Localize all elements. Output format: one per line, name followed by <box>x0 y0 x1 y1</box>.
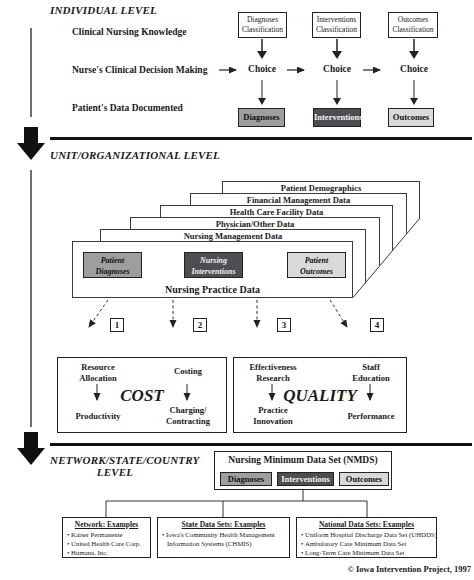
row-label-decision-making: Nurse's Clinical Decision Making <box>72 65 207 75</box>
classification-arrows <box>262 39 414 51</box>
list-item: United Health Care Corp. <box>64 539 149 548</box>
cost-title: COST <box>58 386 226 406</box>
cost-panel: Resource Allocation Costing COST Product… <box>57 357 227 433</box>
dashed-branch-arrows <box>89 300 347 327</box>
quality-performance: Performance <box>336 411 406 422</box>
stack-card-label: Physician/Other Data <box>131 218 379 229</box>
stack-card-label: Patient Demographics <box>223 182 419 193</box>
network-examples-box: Network: Examples Kaiser Permanente Unit… <box>62 517 151 558</box>
stack-card-label: Health Care Facility Data <box>161 206 392 217</box>
state-data-sets-title: State Data Sets: Examples <box>159 520 288 529</box>
list-item: Humana, Inc. <box>64 548 149 557</box>
down-arrowhead-icon <box>333 98 341 105</box>
interventions-data-box: Interventions <box>313 108 361 127</box>
nursing-practice-data-title: Nursing Practice Data <box>73 284 352 295</box>
branch-number-4: 4 <box>370 318 384 332</box>
patient-diagnoses-box: Patient Diagnoses <box>83 252 142 278</box>
branch-number-2: 2 <box>193 318 207 332</box>
stack-card-label: Nursing Management Data <box>101 230 365 241</box>
figure-canvas: INDIVIDUAL LEVEL Clinical Nursing Knowle… <box>0 0 474 580</box>
patient-outcomes-box: Patient Outcomes <box>287 252 346 278</box>
national-data-sets-title: National Data Sets: Examples <box>298 520 435 529</box>
national-data-sets-box: National Data Sets: Examples Uniform Hos… <box>296 517 437 558</box>
cost-productivity: Productivity <box>66 411 130 422</box>
interventions-classification-box: Interventions Classification <box>312 12 361 38</box>
level-down-arrow-1-icon <box>17 127 45 160</box>
row-label-data-documented: Patient's Data Documented <box>72 103 183 113</box>
down-arrowhead-icon <box>409 51 419 59</box>
level-down-arrow-2-icon <box>17 432 45 465</box>
stack-card-label: Financial Management Data <box>191 194 406 205</box>
nmds-tree-connectors <box>106 490 367 517</box>
network-level-heading: NETWORK/STATE/COUNTRY LEVEL <box>50 454 180 478</box>
choice-to-data-arrows <box>262 80 414 98</box>
nursing-interventions-box: Nursing Interventions <box>184 252 243 278</box>
cost-charging-contracting: Charging/ Contracting <box>156 405 220 426</box>
cost-costing: Costing <box>156 366 220 377</box>
quality-practice-innovation: Practice Innovation <box>238 405 308 426</box>
down-arrowhead-icon <box>257 51 267 59</box>
outcomes-classification-box: Outcomes Classification <box>388 12 438 38</box>
state-data-sets-box: State Data Sets: Examples Iowa's Communi… <box>157 517 290 558</box>
diagnoses-classification-box: Diagnoses Classification <box>238 12 287 38</box>
unit-level-heading: UNIT/ORGANIZATIONAL LEVEL <box>50 149 220 161</box>
copyright-text: © Iowa Intervention Project, 1997 <box>347 564 471 574</box>
choice-3: Choice <box>389 64 439 74</box>
outcomes-data-box: Outcomes <box>388 108 434 127</box>
individual-level-heading: INDIVIDUAL LEVEL <box>50 4 157 16</box>
branch-number-1: 1 <box>110 318 124 332</box>
nmds-outcomes-box: Outcomes <box>339 472 389 486</box>
choice-1: Choice <box>237 64 287 74</box>
diagnoses-data-box: Diagnoses <box>238 108 285 127</box>
down-arrowhead-icon <box>332 51 342 59</box>
nmds-title: Nursing Minimum Data Set (NMDS) <box>215 455 391 465</box>
nursing-practice-data-card: Patient Diagnoses Nursing Interventions … <box>72 241 353 298</box>
quality-panel: Effectiveness Research Staff Education Q… <box>233 357 407 433</box>
quality-staff-education: Staff Education <box>336 362 406 383</box>
list-item: Long-Term Care Minimum Data Set <box>298 548 435 557</box>
quality-title: QUALITY <box>234 386 406 406</box>
quality-effectiveness-research: Effectiveness Research <box>238 362 308 383</box>
list-item: Ambulatory Care Minimum Data Set <box>298 539 435 548</box>
list-item: Kaiser Permanente <box>64 530 149 539</box>
down-arrowhead-icon <box>258 98 266 105</box>
cost-resource-allocation: Resource Allocation <box>66 362 130 383</box>
list-item: Uniform Hospital Discharge Data Set (UHD… <box>298 530 435 539</box>
choice-2: Choice <box>312 64 362 74</box>
network-examples-title: Network: Examples <box>64 520 149 529</box>
down-arrowhead-icon <box>410 98 418 105</box>
nmds-box: Nursing Minimum Data Set (NMDS) Diagnose… <box>214 451 392 490</box>
branch-number-3: 3 <box>277 318 291 332</box>
list-item: Iowa's Community Health Management Infor… <box>159 530 288 548</box>
nmds-interventions-box: Interventions <box>277 472 334 486</box>
nmds-diagnoses-box: Diagnoses <box>220 472 272 486</box>
row-label-clinical-nursing-knowledge: Clinical Nursing Knowledge <box>72 27 187 37</box>
